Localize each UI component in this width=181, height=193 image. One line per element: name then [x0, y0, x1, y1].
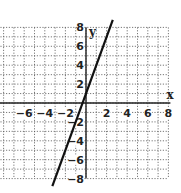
- y-tick-label: 8: [76, 21, 84, 34]
- y-axis-label: y: [88, 25, 97, 39]
- x-tick-label: 4: [123, 107, 131, 120]
- x-tick-label: −6: [16, 107, 33, 120]
- x-tick-label: 6: [144, 107, 152, 120]
- axes: [0, 27, 170, 178]
- y-tick-label: −8: [67, 173, 84, 186]
- x-tick-label: 2: [103, 107, 111, 120]
- y-tick-label: −6: [67, 154, 84, 167]
- x-axis-label: x: [166, 88, 174, 102]
- x-tick-label: 8: [165, 107, 173, 120]
- y-tick-label: 4: [76, 59, 84, 72]
- y-tick-label: 2: [76, 78, 84, 91]
- coordinate-plane: −6−4−22468−8−6−4−22468 x y: [0, 0, 181, 193]
- x-tick-label: −4: [36, 107, 53, 120]
- y-tick-label: 6: [76, 40, 84, 53]
